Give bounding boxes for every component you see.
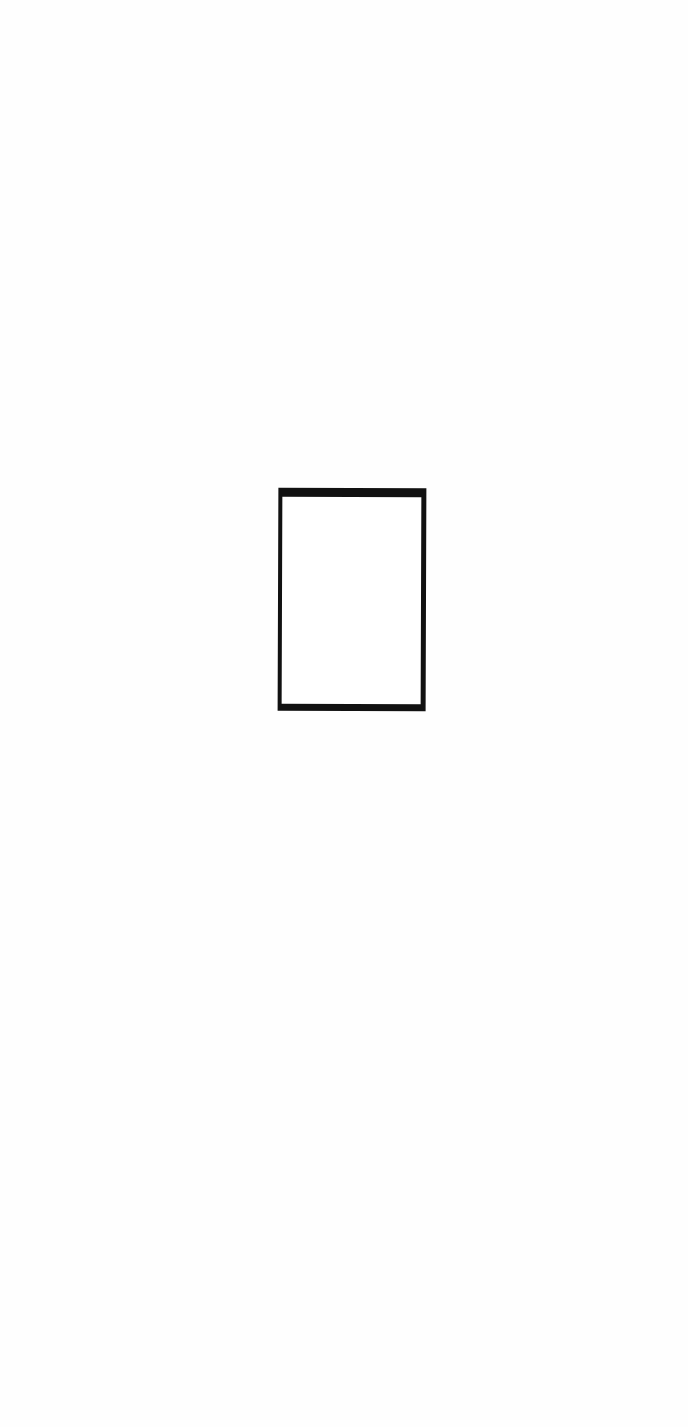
rectangle-outline-shape: [278, 488, 427, 712]
blank-page-canvas: [0, 0, 688, 1427]
